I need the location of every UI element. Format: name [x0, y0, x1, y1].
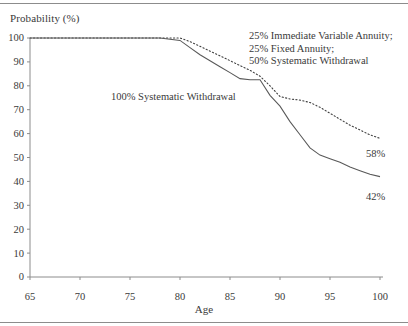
series-line-systematic-withdrawal	[30, 38, 380, 177]
chart-figure: Probability (%) Age 100 90 80 70 60 50 4…	[0, 0, 408, 326]
series-line-annuity-mix	[30, 38, 380, 138]
plot-area	[0, 0, 408, 326]
